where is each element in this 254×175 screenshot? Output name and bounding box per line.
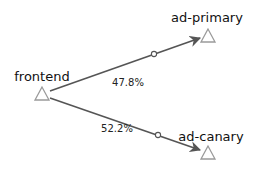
service-graph: 47.8% 52.2% frontend ad-primary ad-canar… bbox=[0, 0, 254, 175]
node-label-ad-primary: ad-primary bbox=[171, 10, 243, 25]
node-label-frontend: frontend bbox=[14, 69, 69, 84]
edge-label-ad-canary: 52.2% bbox=[101, 123, 133, 134]
edge-label-ad-primary: 47.8% bbox=[112, 77, 144, 88]
edge-frontend-to-ad-primary[interactable]: 47.8% bbox=[50, 38, 200, 91]
node-ad-primary[interactable]: ad-primary bbox=[171, 10, 243, 42]
node-ad-canary[interactable]: ad-canary bbox=[178, 129, 244, 159]
edge-marker-icon bbox=[151, 51, 156, 56]
triangle-node-icon[interactable] bbox=[201, 146, 215, 159]
triangle-node-icon[interactable] bbox=[35, 87, 49, 100]
node-label-ad-canary: ad-canary bbox=[178, 129, 244, 144]
triangle-node-icon[interactable] bbox=[201, 29, 215, 42]
node-frontend[interactable]: frontend bbox=[14, 69, 69, 100]
edge-marker-icon bbox=[155, 132, 160, 137]
